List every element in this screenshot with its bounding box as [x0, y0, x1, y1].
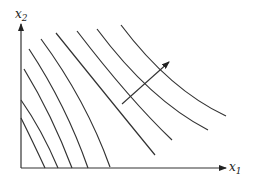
y-axis-label: x2 [15, 7, 28, 23]
indifference-curve [29, 49, 88, 168]
indifference-curve [41, 39, 110, 167]
x-axis-label: x1 [229, 160, 242, 176]
indifference-curve [21, 118, 45, 168]
indifference-curve-diagram: x2 x1 [0, 0, 267, 177]
indifference-curve [121, 25, 226, 116]
indifference-curve [24, 69, 72, 168]
indifference-curve [56, 33, 155, 155]
indifference-curve [21, 100, 58, 168]
indifference-curve [97, 29, 208, 130]
indifference-curve [77, 31, 172, 140]
indifference-curves [21, 25, 226, 168]
